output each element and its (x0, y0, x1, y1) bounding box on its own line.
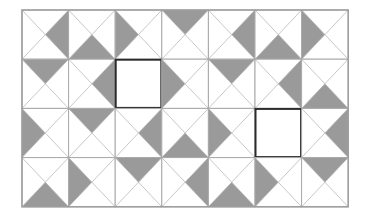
tile-background (255, 108, 302, 157)
tile-cell[interactable] (162, 10, 209, 59)
tile-cell[interactable] (69, 10, 116, 59)
tile-cell[interactable] (162, 59, 209, 108)
tile-cell[interactable] (115, 108, 162, 157)
tile-cell[interactable] (255, 10, 302, 59)
blank-highlighted-cell[interactable] (255, 108, 302, 157)
tile-cell[interactable] (115, 158, 162, 207)
tile-cell[interactable] (69, 59, 116, 108)
tile-cell[interactable] (255, 59, 302, 108)
tile-cell[interactable] (69, 158, 116, 207)
tile-cell[interactable] (208, 59, 255, 108)
tile-cell[interactable] (208, 108, 255, 157)
tile-cell[interactable] (208, 158, 255, 207)
tile-cell[interactable] (22, 10, 69, 59)
tile-cell[interactable] (115, 10, 162, 59)
tile-cell[interactable] (22, 108, 69, 157)
tile-cell[interactable] (208, 10, 255, 59)
tile-cell[interactable] (22, 158, 69, 207)
blank-highlighted-cell[interactable] (115, 59, 162, 108)
tile-cell[interactable] (162, 108, 209, 157)
tile-background (115, 59, 162, 108)
tiling-grid (0, 0, 369, 220)
tile-cell[interactable] (69, 108, 116, 157)
tile-cell[interactable] (255, 158, 302, 207)
tile-cell[interactable] (302, 59, 349, 108)
tile-cell[interactable] (302, 158, 349, 207)
tile-cell[interactable] (22, 59, 69, 108)
tile-cell[interactable] (302, 108, 349, 157)
cells-layer (22, 10, 348, 207)
puzzle-figure (0, 0, 369, 220)
tile-cell[interactable] (302, 10, 349, 59)
tile-cell[interactable] (162, 158, 209, 207)
